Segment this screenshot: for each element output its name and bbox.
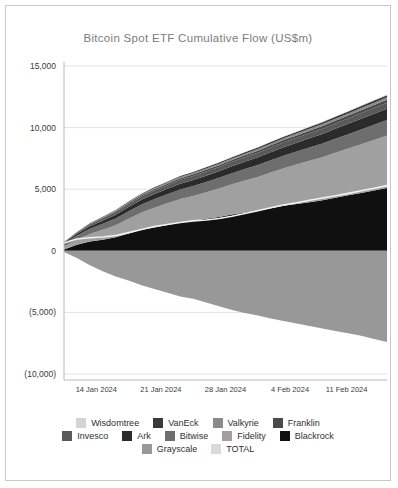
- legend-item-valkyrie[interactable]: Valkyrie: [213, 418, 259, 428]
- stacked-area-chart: 15,00010,0005,0000(5,000)(10,000) 14 Jan…: [6, 6, 392, 416]
- legend-label: Invesco: [77, 431, 108, 441]
- x-tick-label: 11 Feb 2024: [326, 385, 368, 394]
- legend-label: TOTAL: [226, 444, 254, 454]
- y-tick-label: 15,000: [30, 61, 56, 71]
- legend-row: GrayscaleTOTAL: [6, 444, 390, 454]
- area-series-group: [64, 94, 387, 342]
- legend-swatch-icon: [211, 444, 221, 454]
- legend-label: Wisdomtree: [91, 418, 139, 428]
- legend-swatch-icon: [280, 431, 290, 441]
- legend-swatch-icon: [122, 431, 132, 441]
- y-tick-label: (10,000): [24, 369, 56, 379]
- y-axis-labels: 15,00010,0005,0000(5,000)(10,000): [24, 61, 56, 379]
- legend-label: Grayscale: [157, 444, 198, 454]
- x-axis-labels: 14 Jan 202421 Jan 202428 Jan 20244 Feb 2…: [76, 385, 368, 394]
- legend-item-grayscale[interactable]: Grayscale: [142, 444, 198, 454]
- y-tick-label: 10,000: [30, 123, 56, 133]
- legend-swatch-icon: [165, 431, 175, 441]
- x-tick-label: 14 Jan 2024: [76, 385, 117, 394]
- legend-label: Valkyrie: [228, 418, 259, 428]
- chart-card: Bitcoin Spot ETF Cumulative Flow (US$m) …: [5, 5, 391, 481]
- legend-item-wisdomtree[interactable]: Wisdomtree: [76, 418, 139, 428]
- legend-swatch-icon: [62, 431, 72, 441]
- legend-swatch-icon: [142, 444, 152, 454]
- y-tick-label: (5,000): [29, 307, 56, 317]
- legend-item-invesco[interactable]: Invesco: [62, 431, 108, 441]
- legend-item-bitwise[interactable]: Bitwise: [165, 431, 209, 441]
- legend-item-ark[interactable]: Ark: [122, 431, 151, 441]
- x-tick-label: 21 Jan 2024: [140, 385, 181, 394]
- legend-label: Fidelity: [237, 431, 266, 441]
- legend-swatch-icon: [153, 418, 163, 428]
- legend-item-fidelity[interactable]: Fidelity: [222, 431, 266, 441]
- x-tick-label: 4 Feb 2024: [271, 385, 309, 394]
- legend-label: Franklin: [288, 418, 320, 428]
- legend-item-franklin[interactable]: Franklin: [273, 418, 320, 428]
- legend-swatch-icon: [76, 418, 86, 428]
- legend-swatch-icon: [222, 431, 232, 441]
- x-tick-label: 28 Jan 2024: [205, 385, 246, 394]
- legend-label: Bitwise: [180, 431, 209, 441]
- legend-item-blackrock[interactable]: Blackrock: [280, 431, 334, 441]
- legend-swatch-icon: [213, 418, 223, 428]
- legend-label: Ark: [137, 431, 151, 441]
- legend-item-total[interactable]: TOTAL: [211, 444, 254, 454]
- legend-label: VanEck: [168, 418, 198, 428]
- legend-item-vaneck[interactable]: VanEck: [153, 418, 198, 428]
- legend-row: WisdomtreeVanEckValkyrieFranklin: [6, 418, 390, 428]
- area-grayscale: [64, 251, 387, 342]
- legend-label: Blackrock: [295, 431, 334, 441]
- legend-swatch-icon: [273, 418, 283, 428]
- y-tick-label: 0: [51, 246, 56, 256]
- y-tick-label: 5,000: [35, 184, 57, 194]
- legend-row: InvescoArkBitwiseFidelityBlackrock: [6, 431, 390, 441]
- chart-legend: WisdomtreeVanEckValkyrieFranklinInvescoA…: [6, 418, 390, 457]
